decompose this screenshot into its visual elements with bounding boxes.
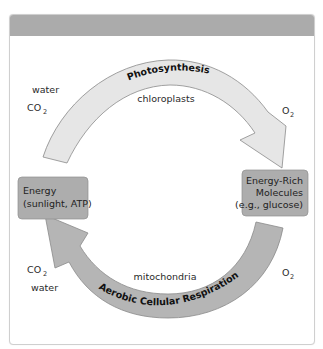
svg-text:2: 2	[290, 273, 294, 281]
chloroplasts-label: chloroplasts	[137, 93, 194, 104]
svg-text:CO: CO	[27, 102, 41, 113]
o2-output-label: O 2	[282, 105, 294, 119]
svg-text:Molecules: Molecules	[256, 187, 303, 198]
svg-text:CO: CO	[27, 264, 41, 275]
svg-text:O: O	[282, 267, 289, 278]
cycle-diagram: Photosynthesis Aerobic Cellular Respirat…	[0, 0, 323, 349]
svg-text:Energy-Rich: Energy-Rich	[246, 175, 303, 186]
o2-input-label: O 2	[282, 267, 294, 281]
svg-text:2: 2	[43, 108, 47, 116]
energy-rich-molecules-box: Energy-Rich Molecules (e.g., glucose)	[235, 170, 308, 216]
co2-output-label: CO 2	[27, 264, 47, 278]
svg-text:2: 2	[290, 111, 294, 119]
photosynthesis-arrow	[43, 60, 286, 168]
water-output-label: water	[31, 282, 58, 293]
svg-text:(sunlight, ATP): (sunlight, ATP)	[23, 198, 92, 209]
svg-text:2: 2	[43, 270, 47, 278]
water-input-label: water	[32, 84, 59, 95]
energy-box: Energy (sunlight, ATP)	[18, 177, 92, 219]
svg-text:Energy: Energy	[23, 185, 57, 196]
mitochondria-label: mitochondria	[134, 271, 197, 282]
svg-text:(e.g., glucose): (e.g., glucose)	[235, 199, 303, 210]
co2-input-label: CO 2	[27, 102, 47, 116]
svg-text:O: O	[282, 105, 289, 116]
